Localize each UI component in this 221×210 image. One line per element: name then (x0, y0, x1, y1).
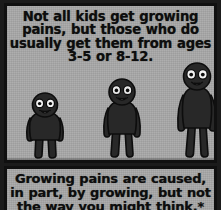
child-figure-drawing (21, 92, 69, 160)
caption-line: the way you might think.* (9, 200, 212, 210)
caption-line: Growing pains are caused, (9, 172, 212, 186)
bottom-panel: Growing pains are caused, in part, by gr… (4, 166, 217, 210)
comic-strip: Not all kids get growing pains, but thos… (0, 0, 221, 210)
teen-figure-drawing (170, 62, 217, 160)
caption-line: in part, by growing, but not (9, 186, 212, 200)
preteen-figure-drawing (95, 78, 149, 160)
caption-line: pains, but those who do (9, 23, 212, 36)
caption-line: 3-5 or 8-12. (9, 50, 212, 63)
figure-child (21, 92, 69, 160)
caption-line: usually get them from ages (9, 37, 212, 50)
figure-teen (170, 62, 217, 160)
top-panel: Not all kids get growing pains, but thos… (4, 3, 217, 163)
figure-preteen (95, 78, 149, 160)
top-panel-caption: Not all kids get growing pains, but thos… (7, 6, 214, 64)
bottom-panel-caption: Growing pains are caused, in part, by gr… (7, 169, 214, 210)
